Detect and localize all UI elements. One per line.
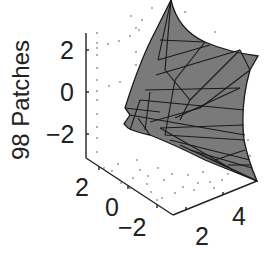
- x-tick-4: 4: [232, 202, 246, 230]
- x-tick-2: 2: [195, 222, 209, 250]
- z-tick-0: 0: [60, 78, 74, 106]
- y-tick-2: 2: [75, 173, 89, 201]
- plot-canvas: 2 0 −2 2 0 −2 2 4 98 Patches: [0, 0, 274, 255]
- z-tick-minus-2: −2: [46, 120, 75, 148]
- y-tick-minus-2: −2: [118, 213, 147, 241]
- y-tick-0: 0: [105, 193, 119, 221]
- z-axis-title: 98 Patches: [7, 40, 34, 160]
- surface-fill: [124, 0, 258, 181]
- triangulated-surface: [124, 0, 258, 181]
- surface-plot-figure: 2 0 −2 2 0 −2 2 4 98 Patches: [0, 0, 274, 255]
- z-tick-2: 2: [60, 36, 74, 64]
- y-axis-line: [86, 158, 173, 215]
